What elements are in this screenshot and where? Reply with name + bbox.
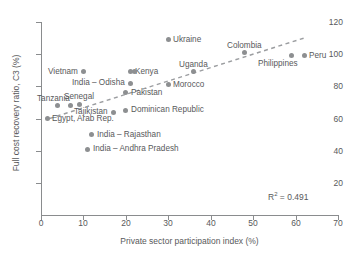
top-crop-strip	[0, 0, 343, 6]
data-point	[123, 90, 128, 95]
x-tick-label: 40	[199, 219, 223, 228]
data-point	[45, 116, 50, 121]
y-tick-label: 120	[309, 18, 343, 27]
data-point	[77, 102, 82, 107]
data-point	[289, 53, 294, 58]
y-tick	[36, 22, 41, 23]
x-tick-label: 10	[71, 219, 95, 228]
data-point	[68, 103, 73, 108]
x-tick-label: 50	[241, 219, 265, 228]
y-tick-label: 60	[309, 115, 343, 124]
data-point-label: Morocco	[173, 80, 204, 89]
x-tick-label: 20	[114, 219, 138, 228]
x-axis-title: Private sector participation index (%)	[41, 236, 338, 246]
data-point-label: Ukraine	[173, 35, 201, 44]
data-point	[166, 37, 171, 42]
data-point	[89, 132, 94, 137]
data-point-label: Uganda	[179, 60, 208, 69]
y-tick-label: 40	[309, 147, 343, 156]
y-tick	[36, 151, 41, 152]
data-point	[111, 110, 116, 115]
data-point	[242, 50, 247, 55]
data-point	[302, 53, 307, 58]
y-tick	[36, 54, 41, 55]
r-squared-annotation: R2 = 0.491	[268, 191, 308, 202]
y-tick-label: 80	[309, 82, 343, 91]
data-point	[123, 108, 128, 113]
data-point-label: Kenya	[135, 67, 158, 76]
data-point	[85, 147, 90, 152]
y-axis-title: Full cost recovery ratio, C3 (%)	[11, 33, 21, 193]
data-point	[166, 82, 171, 87]
data-point-label: Pakistan	[131, 88, 162, 97]
x-tick-label: 70	[326, 219, 348, 228]
y-axis-line	[41, 22, 42, 215]
x-tick-label: 0	[29, 219, 53, 228]
data-point	[191, 69, 196, 74]
data-point	[81, 69, 86, 74]
data-point-label: Dominican Republic	[131, 105, 204, 114]
data-point-label: Tajikistan	[74, 107, 108, 116]
data-point-label: Vietnam	[48, 67, 78, 76]
y-tick	[36, 183, 41, 184]
data-point	[55, 103, 60, 108]
data-point-label: India – Odisha	[72, 78, 125, 87]
data-point-label: Senegal	[64, 92, 94, 101]
data-point-label: Philippines	[258, 59, 298, 68]
x-axis-line	[41, 215, 338, 216]
y-tick	[36, 119, 41, 120]
x-tick-label: 60	[284, 219, 308, 228]
data-point-label: India – Andhra Pradesh	[93, 144, 179, 153]
r-squared-value: = 0.491	[277, 192, 308, 202]
data-point-label: Colombia	[227, 41, 262, 50]
data-point	[128, 81, 133, 86]
y-tick	[36, 86, 41, 87]
data-point-label: India – Rajasthan	[97, 130, 161, 139]
y-tick-label: 20	[309, 179, 343, 188]
data-point-label: Peru	[309, 51, 326, 60]
x-tick-label: 30	[156, 219, 180, 228]
